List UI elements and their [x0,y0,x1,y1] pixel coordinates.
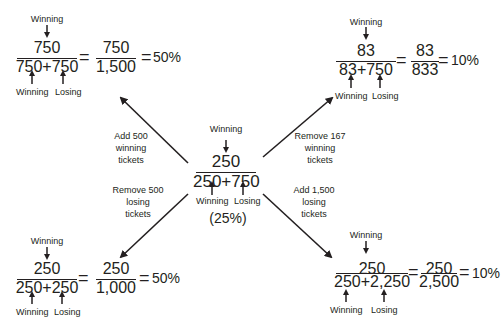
tl-simplified-numerator: 750 [96,40,136,56]
tl-denominator: 750+750 [14,59,80,75]
tr-equals-1: = [396,50,407,71]
tl-equals-2: = [141,47,152,68]
center-percent: (25%) [206,210,250,226]
tr-losing-label: Losing [372,91,399,101]
bl-simplified-denominator: 1,000 [93,280,139,296]
br-result: 10% [472,265,500,281]
tr-winning-label: Winning [335,91,368,101]
br-equals-2: = [459,262,470,283]
tl-winning-label: Winning [16,87,49,97]
tl-top-label: Winning [27,14,67,24]
center-denominator: 250+750 [193,174,259,190]
tr-simplified-denominator: 833 [411,62,439,78]
bl-equals-2: = [139,268,150,289]
br-top-label: Winning [346,230,386,240]
tl-result: 50% [153,49,181,65]
br-action-note: Add 1,500 losing tickets [289,184,339,220]
tr-result: 10% [451,52,479,68]
tl-losing-label: Losing [55,87,82,97]
tr-top-label: Winning [346,17,386,27]
bl-denominator: 250+250 [14,280,80,296]
br-denominator: 250+2,250 [334,274,410,290]
bl-losing-label: Losing [54,307,81,317]
br-losing-label: Losing [371,305,398,315]
center-numerator: 250 [196,154,256,170]
tl-numerator: 750 [17,40,77,56]
bl-action-note: Remove 500 losing tickets [108,184,168,220]
tr-equals-2: = [438,50,449,71]
tl-simplified-denominator: 1,500 [93,59,139,75]
tr-action-note: Remove 167 winning tickets [290,130,350,166]
tr-simplified-numerator: 83 [411,43,439,59]
bl-simplified-numerator: 250 [96,261,136,277]
tl-equals-1: = [79,47,90,68]
bl-equals-1: = [78,268,89,289]
tr-denominator: 83+750 [336,62,396,78]
bl-numerator: 250 [17,261,77,277]
tr-numerator: 83 [336,43,396,59]
center-losing-label: Losing [234,196,261,206]
br-simplified-denominator: 2,500 [419,274,459,290]
bl-winning-label: Winning [16,307,49,317]
br-equals-1: = [408,262,419,283]
bl-result: 50% [152,270,180,286]
tl-action-note: Add 500 winning tickets [106,130,156,166]
center-top-label: Winning [206,124,246,134]
br-winning-label: Winning [330,305,363,315]
center-winning-label: Winning [196,196,229,206]
bl-top-label: Winning [27,236,67,246]
